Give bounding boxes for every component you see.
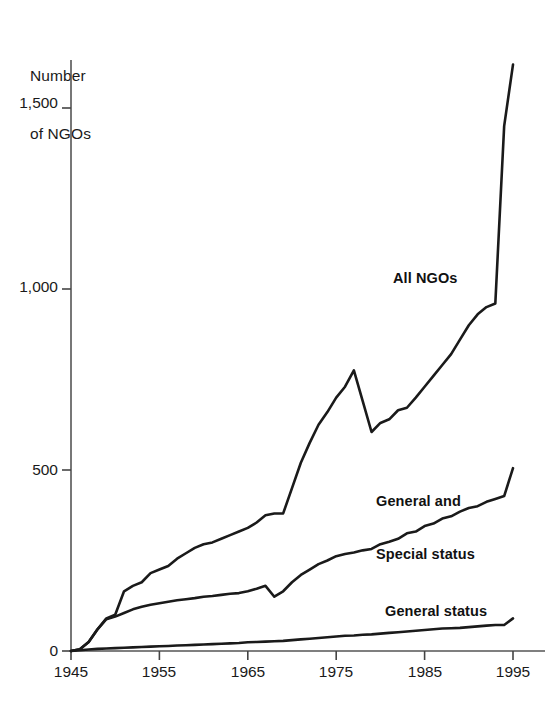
series-label-all-ngos: All NGOs bbox=[393, 270, 457, 288]
y-tick-label-500: 500 bbox=[0, 461, 58, 479]
x-tick-label-1995: 1995 bbox=[496, 663, 530, 681]
series-label-line2: Special status bbox=[376, 546, 475, 564]
x-tick-label-1985: 1985 bbox=[408, 663, 442, 681]
ngo-growth-chart: Number of NGOs 1,500 1,000 500 0 1945 19… bbox=[0, 0, 559, 709]
y-tick-label-1000: 1,000 bbox=[0, 278, 58, 296]
series-label-general-status: General status bbox=[385, 603, 487, 621]
x-tick-label-1955: 1955 bbox=[142, 663, 176, 681]
series-label-line1: General and bbox=[376, 493, 475, 511]
series-label-general-and-special-status: General and Special status bbox=[376, 458, 475, 600]
y-tick-label-1500: 1,500 bbox=[0, 94, 58, 112]
y-tick-label-0: 0 bbox=[0, 642, 58, 660]
x-tick-label-1945: 1945 bbox=[54, 663, 88, 681]
y-axis-ticks bbox=[62, 108, 71, 651]
x-tick-label-1975: 1975 bbox=[319, 663, 353, 681]
x-tick-label-1965: 1965 bbox=[231, 663, 265, 681]
x-axis-ticks bbox=[71, 651, 513, 660]
series-line-general-status bbox=[71, 618, 513, 651]
